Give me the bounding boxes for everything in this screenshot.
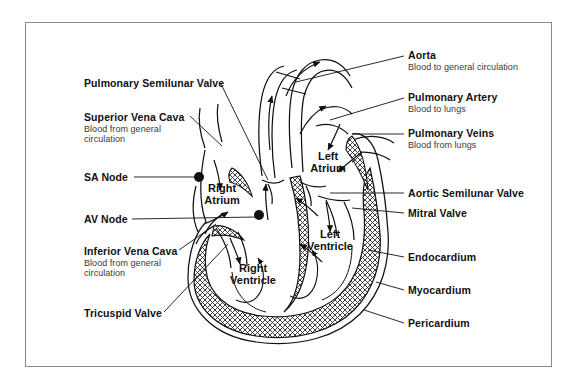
label-title-superior-vena-cava: Superior Vena Cava (84, 112, 184, 124)
label-title-myocardium: Myocardium (408, 285, 471, 297)
chamber-label-left-ventricle: LeftVentricle (307, 228, 353, 253)
label-tricuspid-valve: Tricuspid Valve (84, 308, 162, 320)
chamber-label-right-atrium: RightAtrium (204, 182, 239, 207)
label-pulmonary-artery: Pulmonary ArteryBlood to lungs (408, 92, 497, 114)
label-pulmonary-semilunar-valve: Pulmonary Semilunar Valve (84, 78, 224, 90)
leader-pericardium (364, 310, 404, 323)
label-title-pulmonary-veins: Pulmonary Veins (408, 128, 494, 140)
label-title-tricuspid-valve: Tricuspid Valve (84, 308, 162, 320)
label-title-mitral-valve: Mitral Valve (408, 208, 467, 220)
label-title-aortic-semilunar-valve: Aortic Semilunar Valve (408, 188, 524, 200)
label-pericardium: Pericardium (408, 318, 470, 330)
chamber-label-line-right-ventricle-0: Right (230, 262, 276, 274)
label-title-pericardium: Pericardium (408, 318, 470, 330)
av-node-dot (254, 210, 264, 220)
label-subtitle-pulmonary-veins-0: Blood from lungs (408, 140, 494, 150)
label-title-endocardium: Endocardium (408, 252, 476, 264)
label-myocardium: Myocardium (408, 285, 471, 297)
leader-pulmonary-artery (330, 98, 404, 120)
interventricular-septum (284, 176, 309, 312)
leader-myocardium (376, 282, 404, 290)
chamber-label-line-left-ventricle-0: Left (307, 228, 353, 240)
label-subtitle-inferior-vena-cava-0: Blood from general (84, 258, 177, 268)
label-aorta: AortaBlood to general circulation (408, 50, 518, 72)
chamber-label-line-right-atrium-1: Atrium (204, 194, 239, 206)
label-subtitle-inferior-vena-cava-1: circulation (84, 268, 177, 278)
left-atrium-wall (346, 136, 368, 190)
chamber-label-line-left-atrium-1: Atrium (310, 162, 345, 174)
label-subtitle-superior-vena-cava-1: circulation (84, 134, 184, 144)
leader-inferior-vena-cava (179, 224, 216, 250)
label-subtitle-aorta-0: Blood to general circulation (408, 62, 518, 72)
label-sa-node: SA Node (84, 172, 128, 184)
label-mitral-valve: Mitral Valve (408, 208, 467, 220)
chamber-label-line-left-ventricle-1: Ventricle (307, 240, 353, 252)
leader-aorta (296, 56, 404, 82)
label-title-av-node: AV Node (84, 214, 128, 226)
chamber-label-line-left-atrium-0: Left (310, 150, 345, 162)
label-aortic-semilunar-valve: Aortic Semilunar Valve (408, 188, 524, 200)
sa-node-dot (194, 172, 204, 182)
label-subtitle-pulmonary-artery-0: Blood to lungs (408, 104, 497, 114)
label-title-pulmonary-artery: Pulmonary Artery (408, 92, 497, 104)
chamber-label-line-right-atrium-0: Right (204, 182, 239, 194)
label-endocardium: Endocardium (408, 252, 476, 264)
label-title-aorta: Aorta (408, 50, 518, 62)
label-title-sa-node: SA Node (84, 172, 128, 184)
label-superior-vena-cava: Superior Vena CavaBlood from generalcirc… (84, 112, 184, 144)
label-title-pulmonary-semilunar-valve: Pulmonary Semilunar Valve (84, 78, 224, 90)
chamber-label-left-atrium: LeftAtrium (310, 150, 345, 175)
chamber-label-right-ventricle: RightVentricle (230, 262, 276, 287)
label-pulmonary-veins: Pulmonary VeinsBlood from lungs (408, 128, 494, 150)
label-title-inferior-vena-cava: Inferior Vena Cava (84, 246, 177, 258)
label-av-node: AV Node (84, 214, 128, 226)
right-av-region (212, 226, 244, 240)
chamber-label-line-right-ventricle-1: Ventricle (230, 274, 276, 286)
label-subtitle-superior-vena-cava-0: Blood from general (84, 124, 184, 134)
label-inferior-vena-cava: Inferior Vena CavaBlood from generalcirc… (84, 246, 177, 278)
superior-vena-cava-vessel (199, 104, 222, 148)
